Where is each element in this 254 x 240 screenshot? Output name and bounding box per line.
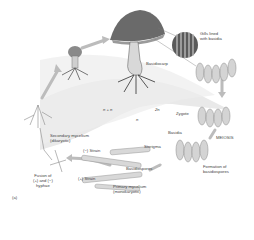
label-fusion: Fusion of(+) and (−)hyphae (33, 174, 53, 188)
label-basidia: Basidia (168, 131, 182, 136)
label-minus-strain: (−) Strain (83, 149, 100, 154)
ploidy-n: n (136, 118, 138, 123)
label-zygote: Zygote (176, 112, 189, 117)
label-sterigma: Sterigma (144, 145, 161, 150)
label-basidiospores: Basidiospores (126, 167, 152, 172)
label-primary-mycelium: Primary mycelium(monokaryotic) (113, 185, 146, 195)
label-secondary-mycelium: Secondary mycelium(dikaryotic) (50, 134, 89, 144)
label-meiosis: MEIOSIS (216, 136, 233, 141)
ploidy-n-plus-n: n + n (103, 108, 112, 113)
panel-label: (a) (12, 196, 17, 201)
label-formation: Formation ofbasidiospores (203, 165, 229, 175)
label-plus-strain: (+) Strain (78, 177, 95, 182)
label-basidiocarp: Basidiocarp (146, 62, 168, 67)
ploidy-2n: 2n (155, 108, 160, 113)
label-gills: Gills linedwith basidia (200, 32, 222, 42)
